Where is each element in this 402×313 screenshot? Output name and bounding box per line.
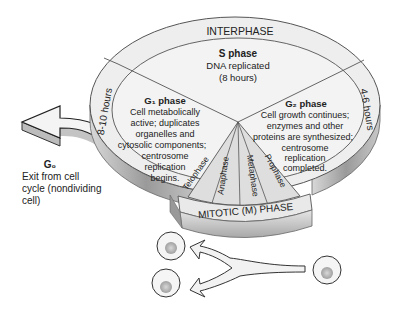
svg-text:organelles and: organelles and	[135, 129, 194, 139]
interphase-label: INTERPHASE	[206, 25, 273, 37]
svg-text:centrosome: centrosome	[141, 151, 188, 161]
svg-text:Exit from cell: Exit from cell	[22, 171, 79, 182]
daughter-cell-bottom	[152, 269, 180, 297]
svg-text:DNA replicated: DNA replicated	[206, 60, 269, 71]
svg-text:proteins are synthesized;: proteins are synthesized;	[253, 132, 353, 142]
svg-text:centrosome: centrosome	[281, 143, 328, 153]
svg-text:Cell growth continues;: Cell growth continues;	[261, 110, 350, 120]
svg-text:Cell metabolically: Cell metabolically	[130, 107, 201, 117]
parent-cell	[313, 256, 341, 284]
svg-text:replication: replication	[144, 162, 185, 172]
svg-text:G₂ phase: G₂ phase	[285, 98, 327, 109]
svg-text:replication: replication	[284, 153, 325, 163]
svg-text:cytosolic components;: cytosolic components;	[118, 140, 207, 150]
svg-text:cell): cell)	[22, 195, 40, 206]
svg-text:cycle (nondividing: cycle (nondividing	[22, 183, 102, 194]
g0-text: G₀ Exit from cell cycle (nondividing cel…	[22, 159, 102, 206]
cell-cycle-diagram: INTERPHASE S phase DNA replicated (8 hou…	[0, 0, 402, 313]
daughter-cell-top	[157, 232, 185, 260]
svg-text:begins.: begins.	[150, 173, 179, 183]
svg-text:S phase: S phase	[219, 48, 258, 59]
svg-text:G₀: G₀	[44, 159, 56, 170]
svg-text:(8 hours): (8 hours)	[219, 72, 257, 83]
g0-exit-arrow	[22, 106, 98, 146]
svg-text:G₁ phase: G₁ phase	[144, 95, 185, 106]
cell-division-arrow	[190, 240, 305, 297]
svg-text:enzymes and other: enzymes and other	[267, 121, 344, 131]
svg-text:active; duplicates: active; duplicates	[130, 118, 200, 128]
svg-text:completed.: completed.	[283, 163, 327, 173]
